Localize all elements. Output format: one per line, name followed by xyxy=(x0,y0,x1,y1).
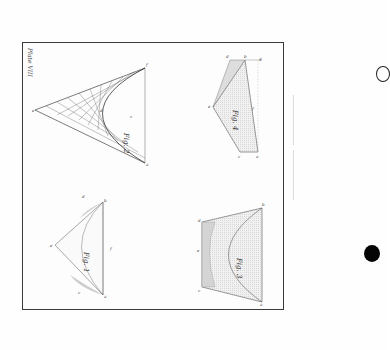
svg-text:a: a xyxy=(256,154,259,159)
svg-text:a: a xyxy=(146,162,149,167)
svg-text:d: d xyxy=(100,108,103,113)
svg-text:f: f xyxy=(251,106,255,111)
svg-text:b: b xyxy=(104,198,107,203)
svg-text:c: c xyxy=(238,154,241,159)
svg-text:f: f xyxy=(109,246,113,251)
svg-text:a: a xyxy=(260,302,263,307)
svg-text:g: g xyxy=(259,56,262,61)
svg-text:e: e xyxy=(208,104,211,109)
binding-hole-filled-icon xyxy=(364,245,380,262)
svg-text:b: b xyxy=(244,54,247,59)
svg-text:f: f xyxy=(145,62,149,67)
svg-text:c: c xyxy=(198,288,201,293)
svg-text:d: d xyxy=(198,218,201,223)
figure-2: e f a d c Fig. 2 xyxy=(32,62,149,167)
svg-text:b: b xyxy=(262,202,265,207)
svg-text:Fig. 1: Fig. 1 xyxy=(82,251,90,272)
svg-text:Fig. 3: Fig. 3 xyxy=(235,257,243,279)
figure-3: d b e c a Fig. 3 xyxy=(197,202,265,307)
svg-text:e: e xyxy=(197,248,200,253)
svg-text:Fig. 4: Fig. 4 xyxy=(231,109,239,130)
svg-text:d: d xyxy=(82,194,85,199)
svg-text:e: e xyxy=(32,108,35,113)
svg-text:e: e xyxy=(50,243,53,248)
svg-text:c: c xyxy=(78,290,81,295)
svg-text:a: a xyxy=(104,294,107,299)
figure-1: e b a d c f Fig. 1 xyxy=(50,194,113,299)
svg-text:c: c xyxy=(130,114,133,119)
figure-4: d b g e c a f Fig. 4 xyxy=(208,54,262,159)
svg-text:Fig. 2: Fig. 2 xyxy=(122,132,130,154)
svg-text:d: d xyxy=(226,54,229,59)
binding-hole-outline-icon xyxy=(376,66,390,82)
